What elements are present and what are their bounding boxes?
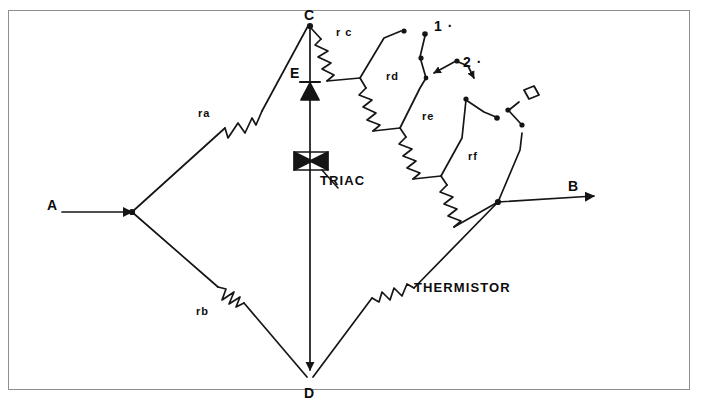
triac-label: TRIAC <box>320 174 365 187</box>
resistor-label-ra: ra <box>198 108 210 119</box>
circuit-schematic-svg <box>0 0 701 414</box>
resistor-label-rc: r c <box>336 27 352 38</box>
bypass-link-3 <box>441 96 469 176</box>
branch-ra-left-upper <box>132 26 308 212</box>
thermistor-label: THERMISTOR <box>414 281 511 294</box>
resistor-rc <box>310 27 360 81</box>
bypass-link-4 <box>498 133 522 202</box>
node-label-b: B <box>568 179 578 193</box>
node-label-c: C <box>304 8 314 22</box>
resistor-label-re: re <box>422 111 434 122</box>
switch-3-assembly[interactable] <box>466 100 525 128</box>
diac-symbol-e <box>300 82 320 100</box>
resistor-re <box>399 128 441 179</box>
diac-label-e: E <box>290 66 299 80</box>
resistor-rf <box>440 176 498 227</box>
switch-label-2: 2 · <box>463 55 482 69</box>
branch-rb-left-lower <box>132 212 307 377</box>
resistor-rd <box>359 78 400 131</box>
circuit-diagram-page: A B C D ra rb r c rd re rf THERMISTOR TR… <box>0 0 701 414</box>
resistor-label-rb: rb <box>196 306 209 317</box>
switch-1-blade[interactable] <box>418 31 427 78</box>
switch-label-1: 1 · <box>434 19 453 33</box>
resistor-label-rd: rd <box>386 71 399 82</box>
resistor-label-rf: rf <box>468 151 478 162</box>
bypass-link-1 <box>360 28 407 78</box>
output-lead-b <box>498 196 594 202</box>
node-label-d: D <box>304 386 314 400</box>
indicator-diamond-icon <box>524 86 539 99</box>
node-label-a: A <box>47 198 57 212</box>
